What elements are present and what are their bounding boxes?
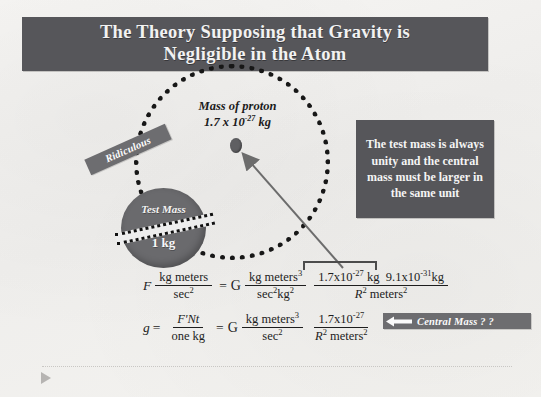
proton-mass-label-line-1: Mass of proton xyxy=(155,98,320,114)
eq1-gravitational-constant: G xyxy=(231,278,241,294)
proton-dot xyxy=(230,138,242,153)
test-mass-label: Test Mass xyxy=(121,203,206,215)
equation-line-1: F kg meters sec2 = G kg meters3 sec2kg2 … xyxy=(143,270,452,302)
eq1-term1-numerator: kg meters3 xyxy=(245,270,306,286)
eq2-lhs-symbol: g xyxy=(143,320,150,336)
central-mass-callout-text: Central Mass ? ? xyxy=(417,316,531,327)
bottom-divider xyxy=(42,366,512,367)
eq2-term2-numerator: 1.7x10-27 xyxy=(314,312,368,328)
eq1-lhs-numerator: kg meters xyxy=(155,270,212,286)
eq1-term1-denominator: sec2kg2 xyxy=(253,286,298,301)
eq2-equals-1: = xyxy=(153,320,161,336)
eq2-term1-fraction: kg meters3 sec2 xyxy=(242,312,303,344)
central-mass-bracket xyxy=(303,261,377,270)
equation-line-2: g = F'Nt one kg = G kg meters3 sec2 1.7x… xyxy=(143,312,376,344)
eq2-equals-2: = xyxy=(216,320,224,336)
eq2-term1-denominator: sec2 xyxy=(258,328,286,343)
test-mass-value: 1 kg xyxy=(121,235,206,251)
note-box: The test mass is always unity and the ce… xyxy=(356,120,494,218)
slide-title-line-2: Negligible in the Atom xyxy=(100,44,410,66)
eq1-term2-numerator: 1.7x10-27 kg 9.1x10-31kg xyxy=(314,270,448,286)
central-mass-callout: Central Mass ? ? xyxy=(383,313,531,329)
play-triangle-icon[interactable] xyxy=(41,372,51,384)
eq2-lhs-numerator: F'Nt xyxy=(173,312,203,328)
eq2-lhs-fraction: F'Nt one kg xyxy=(167,312,209,344)
eq1-term2-fraction: 1.7x10-27 kg 9.1x10-31kg R2 meters2 xyxy=(314,270,448,302)
eq2-term2-fraction: 1.7x10-27 R2 meters2 xyxy=(311,312,372,344)
slide-canvas: The Theory Supposing that Gravity is Neg… xyxy=(0,0,541,397)
eq1-lhs-denominator: sec2 xyxy=(170,286,198,301)
eq2-term2-denominator: R2 meters2 xyxy=(311,328,372,343)
left-arrow-icon xyxy=(386,316,412,327)
slide-title-banner: The Theory Supposing that Gravity is Neg… xyxy=(22,17,488,71)
eq1-lhs-symbol: F xyxy=(143,278,151,294)
eq1-term2-denominator: R2 meters2 xyxy=(351,286,412,301)
proton-mass-label: Mass of proton 1.7 x 10-27 kg xyxy=(155,98,320,130)
eq1-lhs-fraction: kg meters sec2 xyxy=(155,270,212,302)
eq1-term1-fraction: kg meters3 sec2kg2 xyxy=(245,270,306,302)
slide-title-line-1: The Theory Supposing that Gravity is xyxy=(100,22,410,44)
proton-unit: kg xyxy=(255,115,271,129)
proton-exponent: -27 xyxy=(245,114,256,123)
eq2-lhs-denominator: one kg xyxy=(167,328,209,343)
test-mass-circle: Test Mass 1 kg xyxy=(121,188,206,268)
eq1-equals: = xyxy=(219,278,227,294)
eq2-term1-numerator: kg meters3 xyxy=(242,312,303,328)
proton-mantissa: 1.7 x 10 xyxy=(204,115,245,129)
proton-mass-label-value: 1.7 x 10-27 kg xyxy=(155,114,320,130)
eq2-gravitational-constant: G xyxy=(228,320,238,336)
